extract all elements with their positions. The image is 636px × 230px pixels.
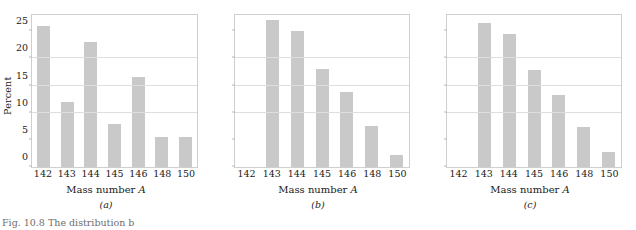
bar-slot xyxy=(472,15,497,167)
y-tick-mark-5 xyxy=(232,138,235,139)
bar xyxy=(155,137,168,167)
x-tick-label: 148 xyxy=(572,168,597,182)
x-tick-label: 148 xyxy=(360,168,385,182)
bar-slot xyxy=(359,15,384,167)
subfigure-caption-b: (b) xyxy=(212,199,424,210)
x-axis-label-symbol: A xyxy=(139,184,146,195)
subfigure-caption-a: (a) xyxy=(0,199,212,210)
bar-slot xyxy=(56,15,80,167)
bar xyxy=(365,126,378,167)
y-axis-label: Percent xyxy=(2,56,16,136)
bar xyxy=(179,137,192,167)
y-tick-mark-15 xyxy=(232,84,235,85)
y-tick-mark-5 xyxy=(29,138,32,139)
x-tick-labels-c: 142143144145146148150 xyxy=(446,168,622,182)
bar-slot xyxy=(334,15,359,167)
y-tick-mark-20 xyxy=(232,57,235,58)
bar-slot xyxy=(596,15,621,167)
bar-slot xyxy=(285,15,310,167)
gridline-15 xyxy=(235,85,409,86)
subfigure-caption-c: (c) xyxy=(424,199,636,210)
bar-slot xyxy=(32,15,56,167)
x-tick-label: 150 xyxy=(385,168,410,182)
y-tick-label-15: 15 xyxy=(16,69,28,80)
bar-slot xyxy=(571,15,596,167)
bar-slot xyxy=(173,15,197,167)
gridline-10 xyxy=(32,112,197,113)
chart-panel-a: Percent 0510152025 142143144145146148150… xyxy=(0,0,212,212)
bar-group-a xyxy=(32,15,197,167)
x-axis-label-b: Mass number A xyxy=(212,184,424,195)
x-tick-label: 142 xyxy=(446,168,471,182)
plot-area-c xyxy=(446,14,622,168)
bar xyxy=(132,77,145,167)
y-tick-mark-15 xyxy=(444,84,447,85)
bar-slot xyxy=(546,15,571,167)
panel-row: Percent 0510152025 142143144145146148150… xyxy=(0,0,636,212)
y-tick-mark-20 xyxy=(444,57,447,58)
x-tick-label: 144 xyxy=(79,168,103,182)
gridline-10 xyxy=(447,112,621,113)
x-tick-label: 144 xyxy=(496,168,521,182)
y-tick-label-0: 0 xyxy=(22,151,28,162)
y-tick-mark-25 xyxy=(444,30,447,31)
x-tick-label: 150 xyxy=(174,168,198,182)
x-tick-label: 146 xyxy=(126,168,150,182)
x-tick-label: 145 xyxy=(103,168,127,182)
bar-slot xyxy=(260,15,285,167)
y-tick-label-10: 10 xyxy=(16,96,28,107)
x-tick-label: 145 xyxy=(309,168,334,182)
bar-slot xyxy=(79,15,103,167)
x-tick-label: 144 xyxy=(284,168,309,182)
bar xyxy=(552,95,565,167)
gridline-10 xyxy=(235,112,409,113)
x-axis-label-symbol: A xyxy=(563,184,570,195)
bar xyxy=(577,127,590,167)
bar xyxy=(503,34,516,167)
x-tick-labels-a: 142143144145146148150 xyxy=(31,168,198,182)
y-tick-mark-20 xyxy=(29,57,32,58)
gridline-15 xyxy=(447,85,621,86)
chart-panel-c: 142143144145146148150 Mass number A (c) xyxy=(424,0,636,212)
y-tick-mark-15 xyxy=(29,84,32,85)
x-tick-label: 143 xyxy=(259,168,284,182)
y-tick-mark-0 xyxy=(232,166,235,167)
gridline-15 xyxy=(32,85,197,86)
y-tick-mark-0 xyxy=(444,166,447,167)
bar-group-b xyxy=(235,15,409,167)
bar xyxy=(478,23,491,167)
y-tick-label-25: 25 xyxy=(16,15,28,26)
x-tick-label: 143 xyxy=(471,168,496,182)
y-tick-label-20: 20 xyxy=(16,42,28,53)
x-tick-label: 142 xyxy=(234,168,259,182)
gridline-20 xyxy=(235,57,409,58)
bar-slot xyxy=(235,15,260,167)
bar-slot xyxy=(522,15,547,167)
bar xyxy=(84,42,97,167)
x-tick-label: 148 xyxy=(150,168,174,182)
x-axis-label-text: Mass number xyxy=(66,184,138,195)
x-tick-label: 143 xyxy=(55,168,79,182)
bar xyxy=(340,92,353,167)
x-axis-label-text: Mass number xyxy=(490,184,562,195)
x-tick-label: 150 xyxy=(597,168,622,182)
chart-panel-b: 142143144145146148150 Mass number A (b) xyxy=(212,0,424,212)
gridline-20 xyxy=(32,57,197,58)
x-axis-label-symbol: A xyxy=(351,184,358,195)
x-axis-label-a: Mass number A xyxy=(0,184,212,195)
x-tick-labels-b: 142143144145146148150 xyxy=(234,168,410,182)
bar-slot xyxy=(497,15,522,167)
y-tick-mark-0 xyxy=(29,166,32,167)
bar xyxy=(291,31,304,167)
gridline-20 xyxy=(447,57,621,58)
bar xyxy=(108,124,121,167)
plot-area-a: 0510152025 xyxy=(31,14,198,168)
bar xyxy=(602,152,615,167)
bar-slot xyxy=(310,15,335,167)
y-tick-mark-10 xyxy=(232,111,235,112)
bar-slot xyxy=(384,15,409,167)
x-axis-label-text: Mass number xyxy=(278,184,350,195)
y-tick-label-5: 5 xyxy=(22,123,28,134)
plot-area-b xyxy=(234,14,410,168)
x-tick-label: 146 xyxy=(547,168,572,182)
